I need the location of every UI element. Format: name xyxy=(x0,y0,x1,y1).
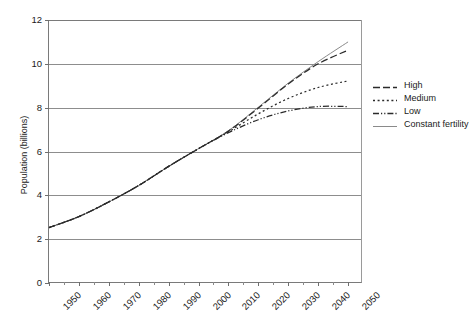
x-tick-label: 2040 xyxy=(330,290,352,312)
x-tick-label: 2010 xyxy=(241,290,263,312)
y-tick-label: 2 xyxy=(37,234,42,244)
y-tick-label: 8 xyxy=(37,103,42,113)
x-tick-label: 1950 xyxy=(61,290,83,312)
x-tick-label: 1980 xyxy=(151,290,173,312)
x-tick-label: 2030 xyxy=(300,290,322,312)
chart-legend: HighMediumLowConstant fertility xyxy=(372,78,469,130)
legend-item-medium[interactable]: Medium xyxy=(372,91,469,104)
y-tick-label: 10 xyxy=(31,59,42,69)
legend-key-icon xyxy=(372,105,398,116)
legend-item-label: High xyxy=(404,80,423,90)
y-tick-label: 12 xyxy=(31,15,42,25)
series-line-medium xyxy=(49,81,348,228)
legend-item-label: Medium xyxy=(404,93,436,103)
series-line-constant-fertility xyxy=(49,42,348,228)
legend-item-low[interactable]: Low xyxy=(372,104,469,117)
series-line-high xyxy=(49,50,348,227)
y-tick-label: 0 xyxy=(37,278,42,288)
legend-item-high[interactable]: High xyxy=(372,78,469,91)
y-axis-title: Population (billions) xyxy=(19,75,29,235)
legend-key-icon xyxy=(372,79,398,90)
legend-key-icon xyxy=(372,92,398,103)
y-tick-label: 6 xyxy=(37,147,42,157)
legend-item-label: Low xyxy=(404,106,421,116)
x-tick-label: 2000 xyxy=(211,290,233,312)
x-tick-label: 1960 xyxy=(91,290,113,312)
series-lines xyxy=(49,20,363,283)
plot-area: 024681012 195019601970198019902000201020… xyxy=(48,20,362,283)
x-tick-label: 2050 xyxy=(360,290,382,312)
legend-key-icon xyxy=(372,118,398,129)
series-line-low xyxy=(49,106,348,227)
legend-item-constant-fertility[interactable]: Constant fertility xyxy=(372,117,469,130)
y-tick-label: 4 xyxy=(37,191,42,201)
legend-item-label: Constant fertility xyxy=(404,119,469,129)
x-tick-label: 1990 xyxy=(181,290,203,312)
x-tick-label: 2020 xyxy=(271,290,293,312)
x-tick-label: 1970 xyxy=(121,290,143,312)
